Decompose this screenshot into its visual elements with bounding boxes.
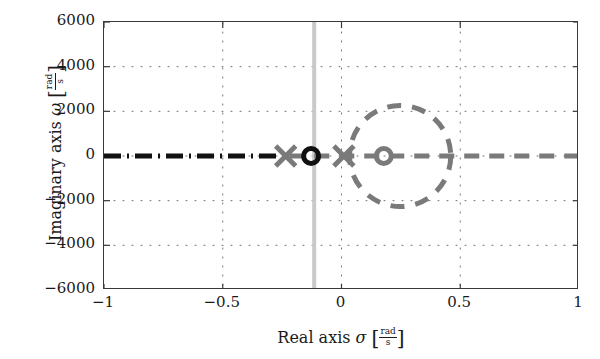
zero-marker-o	[304, 149, 319, 164]
y-axis-label-text: Imaginary axis	[46, 121, 65, 241]
root-figure: Imaginary axis ω [rads] Real axis σ [rad…	[0, 0, 600, 359]
x-axis-unit-numerator: rad	[379, 327, 396, 337]
x-tick-label: 0.5	[419, 293, 499, 311]
x-tick-label: 0	[301, 293, 381, 311]
y-tick-label: 2000	[0, 100, 95, 118]
y-tick-label: 0	[0, 145, 95, 163]
plot-svg	[104, 22, 578, 289]
y-axis-unit-fraction: rads	[45, 73, 65, 90]
y-tick-label: 6000	[0, 11, 95, 29]
x-tick-label: −0.5	[182, 293, 262, 311]
x-axis-label: Real axis σ [rads]	[103, 326, 579, 350]
x-axis-unit-denominator: s	[379, 338, 396, 347]
x-axis-symbol: σ	[356, 328, 367, 347]
x-tick-label: 1	[538, 293, 600, 311]
x-axis-label-text: Real axis	[277, 328, 350, 347]
y-tick-label: −2000	[0, 190, 95, 208]
y-axis-unit-denominator: s	[56, 73, 65, 90]
x-axis-unit-bracket-open: [	[372, 326, 380, 350]
plot-area	[103, 21, 578, 289]
y-axis-unit-numerator: rad	[45, 73, 55, 90]
y-axis-unit-bracket-open: [	[44, 90, 68, 98]
y-tick-label: −4000	[0, 234, 95, 252]
x-axis-unit-fraction: rads	[379, 327, 396, 347]
y-tick-label: 4000	[0, 56, 95, 74]
x-axis-unit-bracket-close: ]	[397, 326, 405, 350]
x-tick-label: −1	[63, 293, 143, 311]
